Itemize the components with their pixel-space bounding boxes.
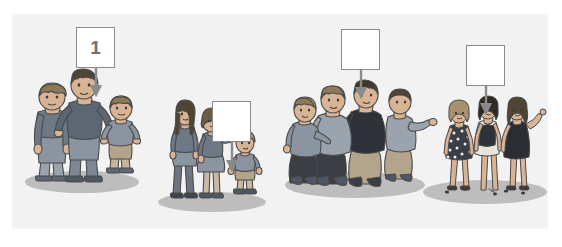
figure-boy-right bbox=[100, 96, 140, 173]
group-4-figures bbox=[444, 96, 546, 190]
callout-box-4[interactable] bbox=[466, 45, 505, 86]
hand-left bbox=[34, 144, 42, 154]
figure-slim-woman-left bbox=[444, 100, 474, 190]
figure-man-center bbox=[54, 69, 114, 182]
illustration-figure: 1 bbox=[0, 0, 562, 247]
group-3-figures bbox=[284, 80, 438, 186]
figure-tall-woman bbox=[170, 100, 199, 198]
figure-boy-left bbox=[34, 83, 71, 181]
figure-slim-woman-right bbox=[501, 97, 546, 190]
figure-heavy-4 bbox=[385, 89, 437, 181]
figure-slim-woman-center bbox=[474, 96, 502, 190]
group-1-figures bbox=[34, 69, 141, 182]
callout-box-1[interactable]: 1 bbox=[76, 27, 115, 68]
callout-box-3[interactable] bbox=[341, 29, 380, 70]
callout-box-2[interactable] bbox=[212, 101, 251, 142]
